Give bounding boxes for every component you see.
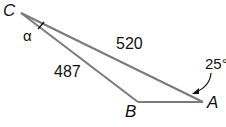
- triangle-diagram: C B A 520 487 α 25°: [0, 0, 226, 127]
- side-cb-label: 487: [54, 64, 81, 80]
- arrowhead-icon: [192, 88, 199, 94]
- side-ca: [21, 13, 203, 102]
- vertex-b-label: B: [125, 103, 136, 120]
- side-ca-label: 520: [116, 36, 143, 52]
- vertex-c-label: C: [3, 2, 15, 19]
- angle-c-label: α: [23, 28, 32, 43]
- side-cb: [21, 13, 138, 102]
- angle-a-label: 25°: [205, 56, 226, 71]
- triangle-lines: [0, 0, 226, 127]
- vertex-a-label: A: [207, 94, 218, 111]
